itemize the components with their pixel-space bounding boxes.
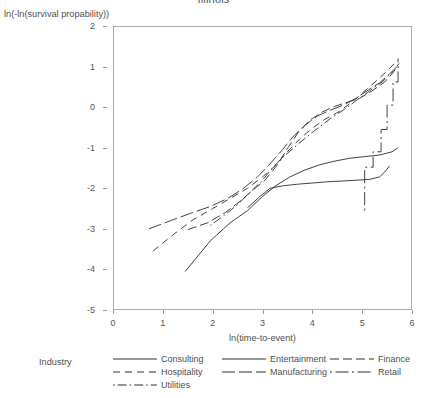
legend-column-2: EntertainmentManufacturing: [222, 352, 327, 378]
y-tick-mark: [103, 67, 107, 68]
chart-root: Illinois ln(-ln(survival propability)) l…: [0, 0, 427, 398]
x-tick-mark: [312, 310, 313, 314]
plot-frame-rect: [113, 26, 411, 309]
x-tick-label: 2: [210, 318, 215, 328]
x-axis-title: ln(time-to-event): [113, 333, 412, 343]
x-tick-label: 1: [160, 318, 165, 328]
series-group: [149, 58, 399, 271]
y-tick-label: -2: [87, 183, 95, 193]
x-axis-ticks: 0123456: [113, 310, 412, 334]
legend-line-swatch: [222, 353, 266, 365]
y-tick-mark: [103, 310, 107, 311]
legend-item-manufacturing[interactable]: Manufacturing: [222, 365, 327, 378]
y-tick-mark: [103, 188, 107, 189]
x-tick-label: 3: [260, 318, 265, 328]
y-tick-label: -1: [87, 143, 95, 153]
y-tick-mark: [103, 269, 107, 270]
chart-title: Illinois: [0, 0, 427, 5]
plot-canvas: [113, 26, 412, 310]
series-line-hospitality: [153, 60, 397, 251]
y-tick-label: -5: [87, 305, 95, 315]
y-axis-title: ln(-ln(survival propability)): [4, 9, 109, 19]
legend: Industry ConsultingHospitalityUtilities …: [0, 352, 427, 398]
legend-line-swatch: [222, 366, 266, 378]
legend-line-swatch: [113, 366, 157, 378]
y-tick-mark: [103, 229, 107, 230]
x-tick-label: 0: [110, 318, 115, 328]
y-tick-mark: [103, 26, 107, 27]
x-tick-mark: [163, 310, 164, 314]
plot-area: [113, 26, 412, 310]
y-tick-label: -4: [87, 264, 95, 274]
legend-line-swatch: [330, 353, 374, 365]
legend-item-retail[interactable]: Retail: [330, 365, 410, 378]
x-tick-mark: [263, 310, 264, 314]
x-tick-mark: [362, 310, 363, 314]
legend-item-entertainment[interactable]: Entertainment: [222, 352, 327, 365]
legend-item-label: Finance: [374, 354, 410, 364]
y-tick-mark: [103, 107, 107, 108]
x-tick-label: 4: [310, 318, 315, 328]
legend-column-1: ConsultingHospitalityUtilities: [113, 352, 204, 391]
x-tick-mark: [113, 310, 114, 314]
series-line-consulting: [185, 148, 398, 272]
y-tick-mark: [103, 148, 107, 149]
legend-item-finance[interactable]: Finance: [330, 352, 410, 365]
legend-column-3: FinanceRetail: [330, 352, 410, 378]
legend-item-utilities[interactable]: Utilities: [113, 378, 204, 391]
x-tick-mark: [213, 310, 214, 314]
legend-item-label: Hospitality: [157, 367, 203, 377]
legend-item-label: Utilities: [157, 380, 190, 390]
y-tick-label: 0: [90, 102, 95, 112]
legend-item-label: Entertainment: [266, 354, 326, 364]
y-axis-ticks: 210-1-2-3-4-5: [0, 26, 107, 310]
y-tick-label: -3: [87, 224, 95, 234]
y-tick-label: 1: [90, 62, 95, 72]
x-tick-mark: [412, 310, 413, 314]
legend-item-consulting[interactable]: Consulting: [113, 352, 204, 365]
series-line-manufacturing: [149, 67, 397, 229]
legend-item-label: Manufacturing: [266, 367, 327, 377]
legend-title: Industry: [39, 357, 72, 367]
y-tick-label: 2: [90, 21, 95, 31]
legend-item-label: Consulting: [157, 354, 204, 364]
legend-item-hospitality[interactable]: Hospitality: [113, 365, 204, 378]
legend-line-swatch: [113, 353, 157, 365]
legend-item-label: Retail: [374, 367, 401, 377]
x-tick-label: 5: [360, 318, 365, 328]
legend-line-swatch: [330, 366, 374, 378]
legend-line-swatch: [113, 379, 157, 391]
x-tick-label: 6: [409, 318, 414, 328]
